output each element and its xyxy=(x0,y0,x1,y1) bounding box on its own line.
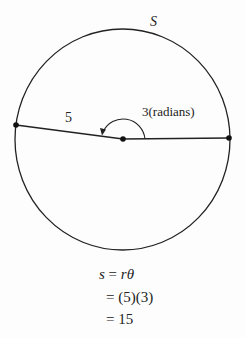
arc-label: S xyxy=(150,14,157,29)
equation-line-3: = 15 xyxy=(106,312,133,327)
radius-line-left xyxy=(16,125,123,139)
center-point xyxy=(120,136,126,142)
right-point xyxy=(226,135,232,141)
radius-line-right xyxy=(123,138,229,139)
equals-sign: = xyxy=(105,266,121,282)
angle-arc xyxy=(103,119,145,139)
arc-length-diagram: S 5 3(radians) xyxy=(0,0,246,338)
radius-label: 5 xyxy=(65,110,72,125)
theta-var: θ xyxy=(127,266,134,282)
angle-label: 3(radians) xyxy=(142,104,195,119)
equation-line-1: s = rθ xyxy=(99,267,134,282)
equation-line-2: = (5)(3) xyxy=(106,290,153,305)
left-point xyxy=(13,122,19,128)
